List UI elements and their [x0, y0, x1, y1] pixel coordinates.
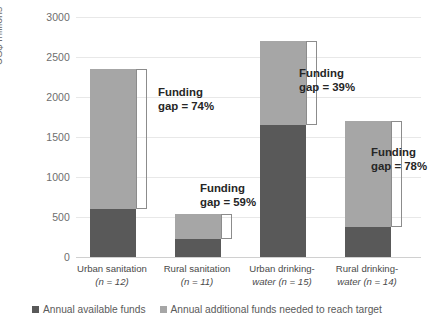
annotation-urban-drinking-water-line1: Funding	[299, 66, 355, 80]
annotation-rural-sanitation-line2: gap = 59%	[200, 195, 256, 209]
annotation-rural-sanitation-line1: Funding	[200, 181, 256, 195]
x-category-label-rural-drinking-water: Rural drinking- water (n = 14)	[317, 263, 417, 288]
plot-area	[76, 17, 421, 257]
annotation-urban-sanitation-line1: Funding	[158, 85, 214, 99]
y-axis-title: US$ millions	[0, 0, 4, 96]
annotation-urban-drinking-water-line2: gap = 39%	[299, 80, 355, 94]
x-category-n-urban-drinking-water: water (n = 15)	[252, 276, 311, 287]
annotation-rural-sanitation: Funding gap = 59%	[200, 181, 256, 209]
bar-segment-gap-rural-sanitation	[175, 214, 221, 239]
y-tick-label-0: 0	[26, 251, 70, 263]
annotation-urban-drinking-water: Funding gap = 39%	[299, 66, 355, 94]
funding-gap-chart: US$ millions 3000 2500 2000 1500 1000 50…	[0, 0, 445, 317]
annotation-urban-sanitation: Funding gap = 74%	[158, 85, 214, 113]
y-tick-label-2500: 2500	[26, 51, 70, 63]
bar-segment-available-rural-drinking-water	[345, 227, 391, 257]
bar-rural-drinking-water[interactable]	[345, 121, 391, 257]
bar-segment-gap-urban-sanitation	[90, 69, 136, 209]
chart-legend: Annual available funds Annual additional…	[32, 304, 382, 315]
x-category-n-rural-sanitation: (n = 11)	[181, 276, 214, 287]
legend-label-additional-funds: Annual additional funds needed to reach …	[171, 304, 382, 315]
x-category-name-rural-sanitation: Rural sanitation	[164, 263, 231, 274]
gap-bracket-rural-sanitation	[221, 214, 232, 239]
bar-segment-available-urban-drinking-water	[260, 125, 306, 257]
bar-rural-sanitation[interactable]	[175, 214, 221, 257]
gridline-2500	[76, 57, 421, 58]
gap-bracket-urban-sanitation	[136, 69, 147, 209]
gridline-3000	[76, 17, 421, 18]
bar-segment-gap-rural-drinking-water	[345, 121, 391, 227]
x-category-name-urban-drinking-water: Urban drinking-	[249, 263, 315, 274]
y-tick-label-500: 500	[26, 211, 70, 223]
x-category-name-urban-sanitation: Urban sanitation	[77, 263, 147, 274]
legend-swatch-additional-funds	[160, 306, 167, 313]
annotation-rural-drinking-water: Funding gap = 78%	[371, 145, 427, 173]
x-category-n-urban-sanitation: (n = 12)	[95, 276, 128, 287]
annotation-rural-drinking-water-line2: gap = 78%	[371, 159, 427, 173]
annotation-urban-sanitation-line2: gap = 74%	[158, 99, 214, 113]
x-category-name-rural-drinking-water: Rural drinking-	[336, 263, 398, 274]
y-tick-label-2000: 2000	[26, 91, 70, 103]
bar-segment-available-urban-sanitation	[90, 209, 136, 257]
bar-segment-available-rural-sanitation	[175, 239, 221, 257]
legend-swatch-available-funds	[32, 306, 39, 313]
gap-bracket-rural-drinking-water	[391, 121, 402, 227]
annotation-rural-drinking-water-line1: Funding	[371, 145, 427, 159]
legend-item-additional-funds[interactable]: Annual additional funds needed to reach …	[160, 304, 382, 315]
legend-item-available-funds[interactable]: Annual available funds	[32, 304, 146, 315]
x-axis-line	[76, 257, 421, 258]
legend-label-available-funds: Annual available funds	[43, 304, 146, 315]
bar-urban-sanitation[interactable]	[90, 69, 136, 257]
y-tick-label-1000: 1000	[26, 171, 70, 183]
x-category-n-rural-drinking-water: water (n = 14)	[337, 276, 396, 287]
y-tick-label-3000: 3000	[26, 11, 70, 23]
y-tick-label-1500: 1500	[26, 131, 70, 143]
